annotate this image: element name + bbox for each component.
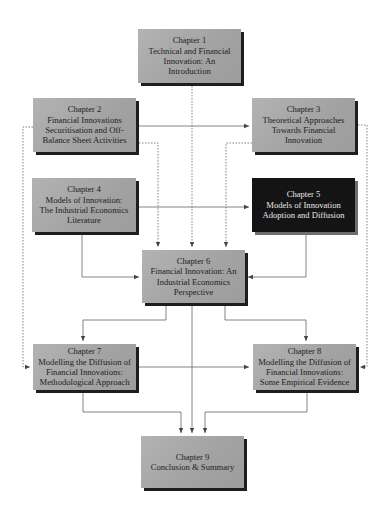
chapter-2-heading: Chapter 2 xyxy=(68,104,102,114)
chapter-3-title-line: Innovation xyxy=(285,135,322,145)
chapter-7-box: Chapter 7 Modelling the Diffusion of Fin… xyxy=(33,344,136,390)
chapter-6-title-line: Financial Innovation: An xyxy=(151,266,237,276)
chapter-7-title-line: Financial Innovations: xyxy=(46,367,123,377)
chapter-5-box-highlighted: Chapter 5 Models of Innovation Adoption … xyxy=(252,178,355,232)
chapter-1-box: Chapter 1 Technical and Financial Innova… xyxy=(138,29,241,83)
chapter-3-title-line: Theoretical Approaches xyxy=(263,115,345,125)
chapter-9-box: Chapter 9 Conclusion & Summary xyxy=(141,436,244,488)
chapter-3-title-line: Towards Financial xyxy=(272,125,336,135)
chapter-1-title-line: Technical and Financial xyxy=(149,46,231,56)
chapter-4-title-line: Models of Innovation: xyxy=(46,195,123,205)
chapter-1-title-line: Introduction xyxy=(168,66,210,76)
chapter-3-box: Chapter 3 Theoretical Approaches Towards… xyxy=(252,98,355,152)
chapter-4-heading: Chapter 4 xyxy=(67,184,101,194)
chapter-6-box: Chapter 6 Financial Innovation: An Indus… xyxy=(142,250,245,303)
chapter-2-box: Chapter 2 Financial Innovations Securiti… xyxy=(33,98,136,152)
chapter-8-heading: Chapter 8 xyxy=(288,346,322,356)
chapter-2-title-line: Balance Sheet Activities xyxy=(42,135,126,145)
chapter-7-title-line: Modelling the Diffusion of xyxy=(38,357,131,367)
chapter-7-title-line: Methodological Approach xyxy=(40,377,130,387)
chapter-9-heading: Chapter 9 xyxy=(176,452,210,462)
chapter-7-heading: Chapter 7 xyxy=(68,346,102,356)
chapter-5-heading: Chapter 5 xyxy=(287,189,321,199)
chapter-8-title-line: Financial Innovations: xyxy=(266,367,343,377)
chapter-4-title-line: Literature xyxy=(67,215,101,225)
chapter-3-heading: Chapter 3 xyxy=(287,104,321,114)
chapter-5-title-line: Adoption and Diffusion xyxy=(263,210,345,220)
chapter-8-box: Chapter 8 Modelling the Diffusion of Fin… xyxy=(253,344,356,390)
chapter-6-heading: Chapter 6 xyxy=(177,256,211,266)
chapter-1-title-line: Innovation: An xyxy=(164,56,216,66)
chapter-2-title-line: Securitisation and Off- xyxy=(45,125,124,135)
chapter-5-title-line: Models of Innovation xyxy=(266,200,340,210)
chapter-8-title-line: Some Empirical Evidence xyxy=(260,377,350,387)
chapter-6-title-line: Perspective xyxy=(174,287,214,297)
chapter-8-title-line: Modelling the Diffusion of xyxy=(258,357,351,367)
chapter-2-title-line: Financial Innovations xyxy=(47,115,122,125)
chapter-4-box: Chapter 4 Models of Innovation: The Indu… xyxy=(32,178,136,232)
chapter-9-title-line: Conclusion & Summary xyxy=(151,462,235,472)
chapter-1-heading: Chapter 1 xyxy=(173,35,207,45)
chapter-6-title-line: Industrial Economics xyxy=(157,277,230,287)
chapter-4-title-line: The Industrial Economics xyxy=(40,205,129,215)
chapter-flow-diagram: Chapter 1 Technical and Financial Innova… xyxy=(0,0,388,525)
